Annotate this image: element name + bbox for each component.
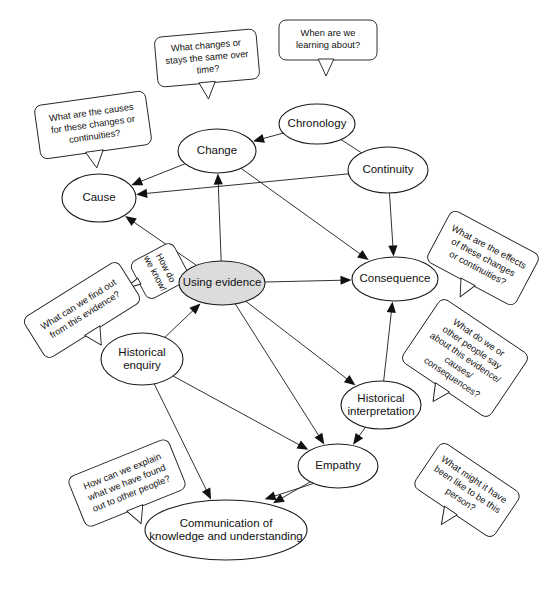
node-label: knowledge and understanding [149,530,302,542]
node-label: Continuity [362,163,413,175]
node-label: Historical [118,346,165,358]
node-change[interactable]: Change [178,129,256,173]
edge-using-evidence-to-empathy [235,304,324,444]
arrowhead [340,276,351,285]
edge-change-to-consequence [241,168,369,260]
callout-line: time? [196,63,220,75]
node-label: interpretation [347,405,414,417]
node-using-evidence[interactable]: Using evidence [179,261,265,305]
callout-line: learning about? [296,40,360,50]
node-chronology[interactable]: Chronology [279,104,355,144]
node-label: Chronology [288,117,347,129]
arrowhead [131,177,143,186]
arrowhead [214,173,223,184]
callout-change-question: What changes orstays the same overtime? [154,29,261,104]
node-label: Change [197,144,237,156]
edge-historical-enquiry-to-using-evidence [165,303,201,337]
arrowhead [387,301,396,312]
edge-chronology-to-continuity [341,140,361,153]
node-historical-interpretation[interactable]: Historicalinterpretation [341,381,421,429]
arrowhead [353,433,363,445]
arrowhead [265,492,277,501]
callout-tail [86,150,106,169]
edge-continuity-to-consequence [388,193,397,257]
arrowhead [125,216,137,226]
node-communication[interactable]: Communication ofknowledge and understand… [145,500,307,560]
callout-consequence-question: What are the effectsof these changesor c… [418,209,541,321]
arrowhead [253,134,265,143]
edge-change-to-cause [131,164,185,186]
callout-chronology-question: When are welearning about? [279,20,377,76]
callout-tail [318,59,334,76]
node-consequence[interactable]: Consequence [352,257,438,301]
callout-layer: What are the causesfor these changes orc… [22,20,541,552]
callout-tail [199,81,217,99]
node-label: Using evidence [183,276,262,288]
arrowhead [388,245,397,256]
arrowhead [136,189,147,198]
node-label: Historical [357,392,404,404]
node-label: Communication of [180,517,273,529]
node-label: Consequence [360,272,431,284]
node-label: Cause [82,191,115,203]
concept-map-canvas: What are the causesfor these changes orc… [0,0,544,590]
node-empathy[interactable]: Empathy [298,444,378,488]
arrowhead [315,433,325,445]
edge-empathy-to-communication [273,482,310,503]
edge-using-evidence-to-consequence [265,276,352,285]
callout-line: When are we [301,28,356,38]
arrowhead [344,375,356,385]
node-continuity[interactable]: Continuity [348,147,428,193]
callout-causes-question: What are the causesfor these changes orc… [34,90,155,175]
edge-continuity-to-cause [136,174,348,198]
edge-chronology-to-change [253,133,283,143]
node-label: Empathy [315,459,361,471]
node-historical-enquiry[interactable]: Historicalenquiry [101,333,183,385]
callout-empathy-question: What might it havebeen like to be thispe… [403,441,522,553]
edge-empathy-to-communication [265,483,314,500]
node-cause[interactable]: Cause [62,174,136,222]
edge-historical-interpretation-to-consequence [384,301,396,381]
edge-using-evidence-to-historical-interpretation [246,301,356,385]
arrowhead [297,441,309,450]
node-label: enquiry [123,359,161,371]
arrowhead [357,250,369,260]
edge-historical-interpretation-to-empathy [353,427,365,445]
